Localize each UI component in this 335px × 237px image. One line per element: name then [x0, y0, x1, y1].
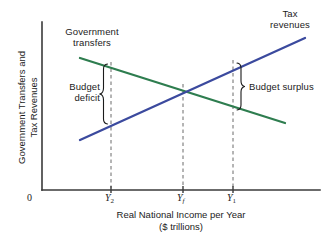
x-tick-label-yf: Yf — [177, 192, 185, 205]
series-label-tax-revenues: Tax revenues — [252, 8, 328, 30]
x-tick-sub-y2: 2 — [111, 197, 115, 205]
x-tick-label-y2: Y2 — [105, 192, 114, 205]
annotation-deficit-line2: deficit — [74, 92, 100, 103]
y-axis-title-line2: Tax Revenues — [27, 77, 38, 137]
annotation-budget-surplus: Budget surplus — [249, 81, 314, 92]
x-axis-title-line2: ($ trillions) — [159, 221, 203, 232]
series-label-revenues-line2: revenues — [270, 19, 310, 30]
annotation-deficit-line1: Budget — [69, 81, 100, 92]
annotation-budget-deficit: Budget deficit — [40, 81, 100, 103]
annotation-surplus-line1: Budget surplus — [249, 81, 314, 92]
x-tick-sub-yf: f — [183, 197, 185, 205]
economics-fiscal-balance-chart: Government Transfers and Tax Revenues Re… — [0, 0, 335, 237]
x-axis-title: Real National Income per Year ($ trillio… — [42, 209, 320, 232]
x-axis-title-line1: Real National Income per Year — [117, 209, 246, 220]
x-tick-label-y1: Y1 — [227, 192, 236, 205]
series-label-government-transfers: Government transfers — [47, 26, 137, 48]
y-axis-title: Government Transfers and Tax Revenues — [16, 33, 39, 183]
budget-surplus-brace — [237, 63, 245, 110]
origin-label: 0 — [27, 192, 32, 203]
series-label-transfers-line2: transfers — [73, 37, 111, 48]
y-axis-title-line1: Government Transfers and — [16, 51, 27, 164]
x-tick-sub-y1: 1 — [233, 197, 237, 205]
series-label-transfers-line1: Government — [65, 26, 118, 37]
series-label-revenues-line1: Tax — [282, 8, 297, 19]
budget-deficit-brace — [100, 64, 108, 124]
